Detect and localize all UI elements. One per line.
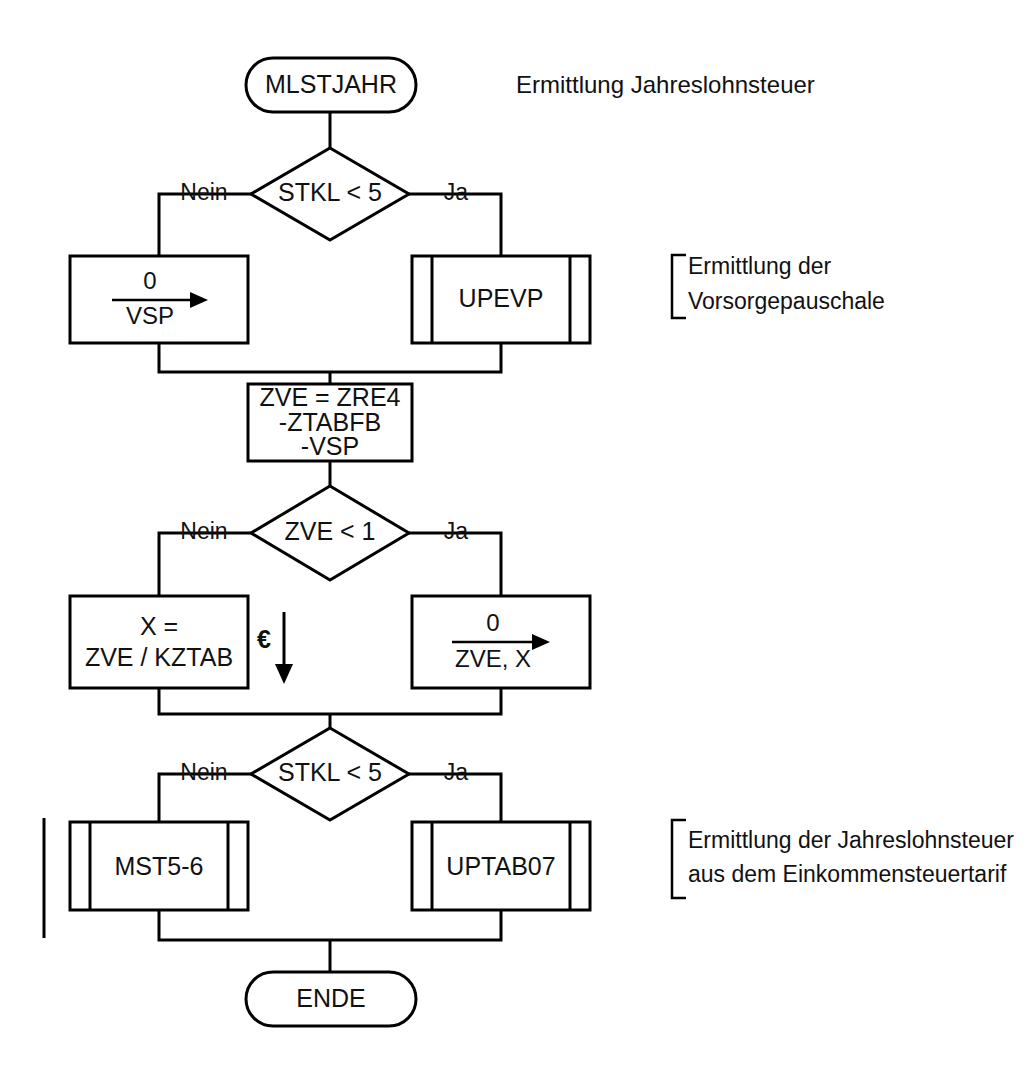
euro-icon: € — [257, 625, 271, 653]
connector-merge-mst-uptab — [159, 910, 501, 940]
mst56-label: MST5-6 — [115, 852, 204, 880]
node-end[interactable]: ENDE — [246, 972, 416, 1026]
diagram-title: Ermittlung Jahreslohnsteuer — [516, 71, 815, 98]
zve-calc-line3: -VSP — [301, 432, 359, 460]
node-decision3[interactable]: STKL < 5 — [251, 728, 409, 820]
node-start[interactable]: MLSTJAHR — [246, 58, 416, 112]
node-upevp[interactable]: UPEVP — [412, 256, 590, 343]
decision3-label: STKL < 5 — [278, 758, 382, 786]
annotation-tarif: Ermittlung der Jahreslohnsteuer aus dem … — [672, 820, 1014, 898]
end-label: ENDE — [296, 984, 365, 1012]
vorsorge-line1: Ermittlung der — [688, 253, 832, 279]
node-mst56[interactable]: MST5-6 — [70, 822, 248, 910]
assign-vsp-numerator: 0 — [143, 267, 156, 294]
decision1-yes-label: Ja — [444, 179, 469, 205]
node-x-calc[interactable]: X = ZVE / KZTAB — [70, 596, 248, 688]
node-assign-zvex[interactable]: 0 ZVE, X — [412, 596, 590, 688]
connector-merge-x-zvex — [159, 688, 501, 714]
assign-zvex-numerator: 0 — [486, 609, 499, 636]
decision1-label: STKL < 5 — [278, 178, 382, 206]
annotation-euro-marker: € — [257, 612, 293, 684]
euro-arrowhead — [275, 664, 293, 684]
x-calc-line2: ZVE / KZTAB — [85, 643, 233, 671]
x-calc-line1: X = — [140, 612, 178, 640]
node-uptab07[interactable]: UPTAB07 — [412, 822, 590, 910]
tarif-bracket-icon — [672, 820, 686, 898]
node-assign-vsp[interactable]: 0 VSP — [70, 256, 248, 343]
decision3-yes-label: Ja — [444, 759, 469, 785]
tarif-line1: Ermittlung der Jahreslohnsteuer — [688, 827, 1014, 853]
node-zve-calc[interactable]: ZVE = ZRE4 -ZTABFB -VSP — [248, 383, 412, 461]
assign-zvex-denominator: ZVE, X — [455, 645, 531, 672]
decision2-label: ZVE < 1 — [284, 517, 375, 545]
decision3-no-label: Nein — [180, 759, 227, 785]
decision2-no-label: Nein — [180, 518, 227, 544]
tarif-line2: aus dem Einkommensteuertarif — [688, 861, 1007, 887]
zve-calc-line1: ZVE = ZRE4 — [259, 383, 400, 411]
annotation-vorsorge: Ermittlung der Vorsorgepauschale — [672, 253, 885, 318]
node-decision1[interactable]: STKL < 5 — [251, 148, 409, 240]
upevp-label: UPEVP — [459, 284, 544, 312]
node-decision2[interactable]: ZVE < 1 — [251, 486, 409, 580]
decision1-no-label: Nein — [180, 179, 227, 205]
assign-vsp-denominator: VSP — [126, 302, 174, 329]
decision2-yes-label: Ja — [444, 518, 469, 544]
start-label: MLSTJAHR — [265, 70, 397, 98]
vorsorge-bracket-icon — [672, 255, 686, 318]
flowchart-canvas: MLSTJAHR Ermittlung Jahreslohnsteuer STK… — [0, 0, 1036, 1092]
vorsorge-line2: Vorsorgepauschale — [688, 288, 885, 314]
connector-merge-vsp-upevp — [159, 343, 501, 372]
uptab07-label: UPTAB07 — [446, 852, 555, 880]
